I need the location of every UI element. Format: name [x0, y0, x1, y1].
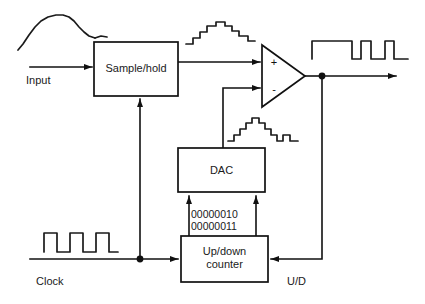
- sample-hold-block[interactable]: Sample/hold: [94, 42, 178, 96]
- up-down-counter-block[interactable]: Up/down counter: [181, 236, 268, 282]
- up-down-control-label: U/D: [287, 275, 306, 287]
- sample-hold-label: Sample/hold: [105, 62, 166, 74]
- comparator-output-waveform: [312, 41, 408, 59]
- comparator-block[interactable]: + -: [262, 45, 305, 107]
- up-down-counter-label-line1: Up/down: [203, 245, 246, 257]
- clock-waveform: [44, 233, 118, 252]
- dac-block[interactable]: DAC: [178, 148, 265, 192]
- bus-value-upper: 00000010: [191, 208, 238, 220]
- dac-label: DAC: [210, 164, 233, 176]
- dac-output-staircase-waveform: [228, 118, 298, 141]
- comparator-minus-label: -: [272, 83, 276, 95]
- sampled-staircase-waveform: [186, 22, 255, 44]
- input-label: Input: [26, 74, 50, 86]
- comparator-plus-label: +: [271, 56, 277, 68]
- bus-value-lower: 00000011: [191, 220, 237, 232]
- diagram-canvas: Sample/hold DAC Up/down counter + - Inpu…: [0, 0, 425, 304]
- wire-output-feedback-to-counter-ud: [271, 76, 322, 259]
- clock-label: Clock: [36, 275, 64, 287]
- adc-block-diagram: Sample/hold DAC Up/down counter + - Inpu…: [0, 0, 425, 304]
- up-down-counter-label-line2: counter: [206, 258, 243, 270]
